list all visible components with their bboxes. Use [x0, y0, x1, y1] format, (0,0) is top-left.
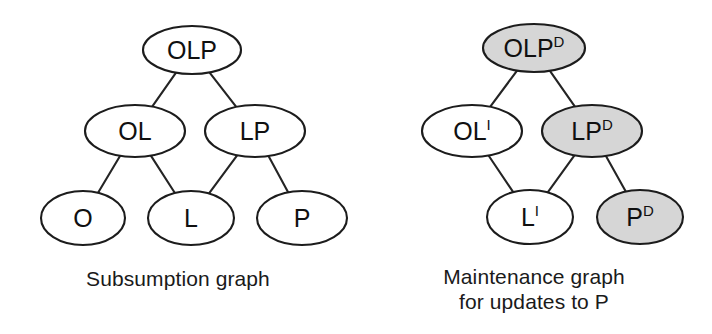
node-label: OL	[118, 117, 151, 145]
graph-node[interactable]: OLPD	[483, 24, 585, 72]
graph-edge	[209, 155, 237, 193]
graph-node[interactable]: PD	[597, 190, 683, 244]
maintenance-graph: OLPDOLILPDLIPD	[356, 0, 712, 262]
caption-subsumption: Subsumption graph	[0, 266, 356, 291]
graph-node[interactable]: L	[148, 191, 234, 245]
graph-edge	[490, 71, 517, 107]
caption-line: Maintenance graph	[356, 264, 712, 289]
panel-maintenance: OLPDOLILPDLIPD Maintenance graphfor upda…	[356, 0, 712, 334]
graph-edge	[489, 156, 514, 193]
node-label: OLI	[453, 116, 491, 145]
graph-edge	[98, 156, 120, 193]
graph-node[interactable]: LI	[487, 190, 573, 244]
graph-edge	[548, 155, 575, 192]
graph-node[interactable]: OL	[85, 105, 185, 157]
caption-maintenance: Maintenance graphfor updates to P	[356, 264, 712, 314]
graph-edge	[550, 71, 575, 107]
graph-edge	[151, 156, 175, 193]
node-label: LP	[240, 117, 271, 145]
graph-edge	[269, 156, 289, 192]
graph-edge	[209, 72, 236, 106]
graph-node[interactable]: OLI	[422, 105, 522, 157]
node-label: P	[294, 204, 311, 232]
subsumption-graph: OLPOLLPOLP	[0, 0, 356, 262]
graph-edge	[606, 156, 626, 192]
node-label: OLP	[167, 36, 217, 64]
graph-node[interactable]: OLP	[143, 26, 241, 74]
graph-edge	[152, 73, 176, 107]
figure-root: OLPOLLPOLP Subsumption graph OLPDOLILPDL…	[0, 0, 712, 334]
caption-line: for updates to P	[356, 289, 712, 314]
node-label: L	[184, 204, 198, 232]
graph-node[interactable]: LP	[205, 105, 305, 157]
node-label: O	[73, 204, 92, 232]
graph-node[interactable]: P	[257, 191, 347, 245]
graph-node[interactable]: O	[41, 191, 125, 245]
panel-subsumption: OLPOLLPOLP Subsumption graph	[0, 0, 356, 334]
graph-node[interactable]: LPD	[542, 105, 642, 157]
caption-line: Subsumption graph	[0, 266, 356, 291]
